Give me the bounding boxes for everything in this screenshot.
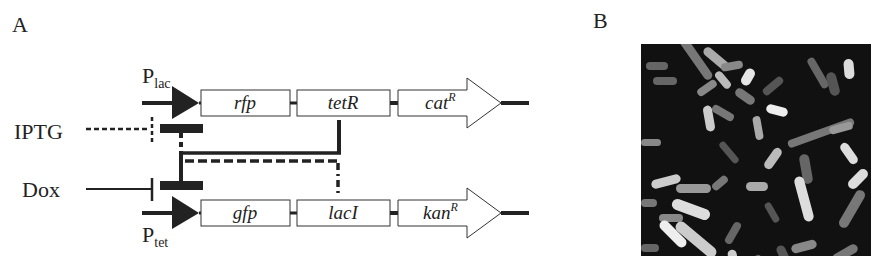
top-operon: Plac rfp tetR catR (142, 63, 529, 128)
plac-repression-bar (160, 124, 203, 133)
ptet-repression-bar (160, 181, 203, 190)
ptet-promoter-icon (172, 196, 199, 229)
plac-promoter-icon (172, 86, 199, 119)
dox-label: Dox (22, 177, 60, 202)
ptet-label: Ptet (142, 222, 168, 250)
regulatory-network: IPTG Dox (14, 117, 341, 202)
plac-label: Plac (142, 63, 171, 91)
fluorescence-micrograph (641, 44, 871, 256)
gene-label-lacI: lacI (328, 202, 359, 223)
iptg-label: IPTG (14, 119, 63, 144)
gene-label-tetR: tetR (328, 92, 359, 113)
gene-label-rfp: rfp (234, 92, 256, 113)
gene-label-gfp: gfp (233, 202, 257, 223)
bottom-operon: Ptet gfp lacI kanR (142, 188, 529, 250)
